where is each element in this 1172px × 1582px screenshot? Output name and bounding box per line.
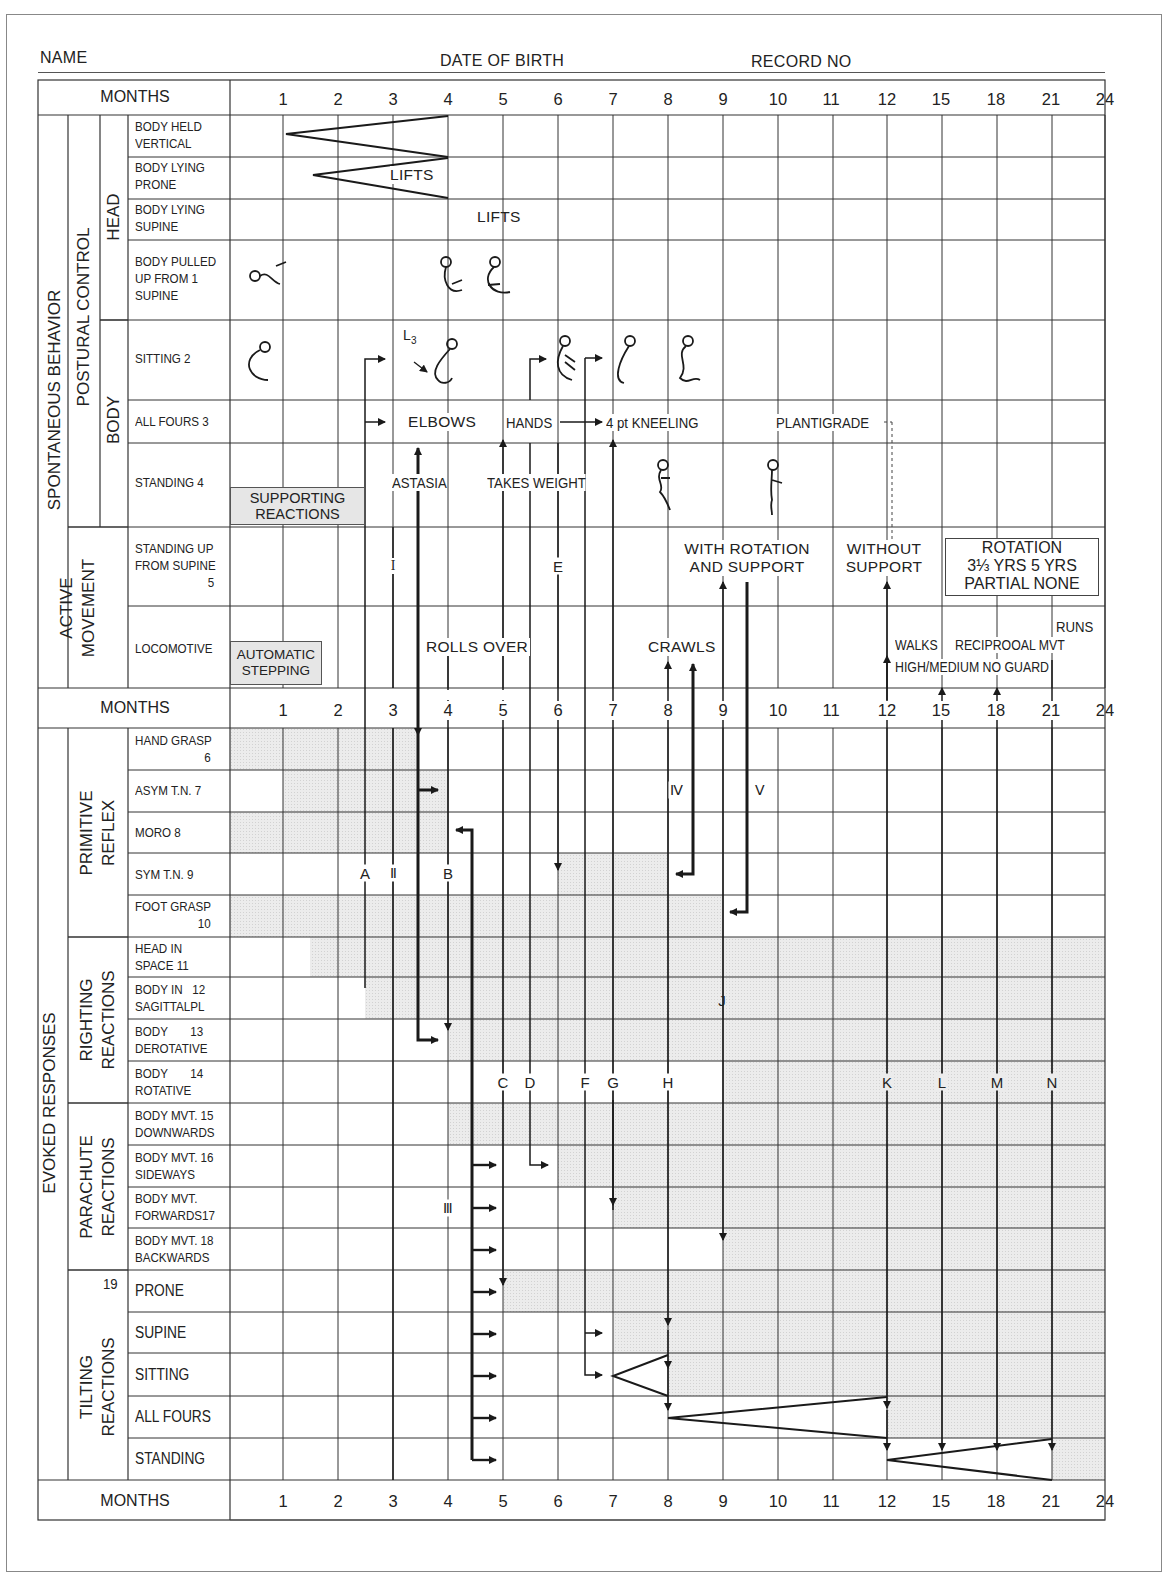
- group-spontaneous-behavior: SPONTANEOUS BEHAVIOR: [45, 255, 65, 545]
- astasia-label: ASTASIA: [392, 474, 447, 491]
- row-body-lying-supine: BODY LYINGSUPINE: [135, 201, 205, 235]
- row-standing: STANDING 4: [135, 474, 204, 491]
- roman-III: Ⅲ: [442, 1200, 454, 1217]
- letter-C: C: [496, 1074, 511, 1091]
- tick-1: 1: [278, 701, 287, 720]
- row-standing-up-from-supine: STANDING UPFROM SUPINE5: [135, 540, 221, 591]
- supporting-reactions-box: SUPPORTINGREACTIONS: [230, 487, 365, 525]
- tick-9: 9: [718, 1492, 727, 1511]
- letter-G: G: [605, 1074, 621, 1091]
- row-body-held-vertical: BODY HELDVERTICAL: [135, 118, 202, 152]
- without-support-label: WITHOUTSUPPORT: [836, 540, 932, 576]
- tick-15: 15: [932, 1492, 950, 1511]
- kneeling-label: 4 pt KNEELING: [606, 414, 698, 431]
- tick-11: 11: [822, 90, 839, 109]
- tick-11: 11: [822, 701, 839, 720]
- plantigrade-label: PLANTIGRADE: [776, 414, 869, 431]
- tick-10: 10: [769, 701, 787, 720]
- row-tilt-all-fours: ALL FOURS: [135, 1408, 211, 1425]
- l3-label: L3: [403, 327, 417, 346]
- tick-15: 15: [932, 90, 950, 109]
- group-body: BODY: [104, 380, 124, 460]
- tick-18: 18: [987, 1492, 1005, 1511]
- tick-3: 3: [388, 1492, 397, 1511]
- row-all-fours: ALL FOURS 3: [135, 413, 209, 430]
- tick-4: 4: [443, 1492, 452, 1511]
- reciprocal-label: RECIPROOAL MVT: [955, 637, 1065, 653]
- row-asym-tn: ASYM T.N. 7: [135, 782, 201, 799]
- letter-M: M: [989, 1074, 1006, 1091]
- tick-10: 10: [769, 1492, 787, 1511]
- tick-3: 3: [388, 90, 397, 109]
- group-evoked-responses: EVOKED RESPONSES: [40, 993, 60, 1213]
- letter-E: E: [551, 558, 565, 575]
- letter-L: L: [936, 1074, 948, 1091]
- rolls-over-label: ROLLS OVER: [424, 638, 530, 656]
- tick-5: 5: [498, 90, 507, 109]
- tick-2: 2: [333, 90, 342, 109]
- tick-4: 4: [443, 701, 452, 720]
- letter-H: H: [661, 1074, 676, 1091]
- tick-5: 5: [498, 701, 507, 720]
- tilting-number: 19: [103, 1275, 118, 1292]
- lifts-prone: LIFTS: [390, 166, 434, 184]
- group-parachute-reactions: PARACHUTEREACTIONS: [76, 1127, 120, 1247]
- roman-IV: Ⅳ: [669, 782, 684, 799]
- group-primitive-reflex: PRIMITIVEREFLEX: [76, 783, 120, 883]
- row-sym-tn: SYM T.N. 9: [135, 866, 194, 883]
- row-body-mvt-backwards: BODY MVT. 18BACKWARDS: [135, 1232, 214, 1266]
- tick-7: 7: [608, 701, 617, 720]
- tick-21: 21: [1042, 701, 1060, 720]
- group-postural-control: POSTURAL CONTROL: [74, 207, 94, 427]
- hands-label: HANDS: [506, 414, 552, 431]
- roman-V: Ⅴ: [754, 782, 766, 799]
- row-body-mvt-downwards: BODY MVT. 15DOWNWARDS: [135, 1107, 215, 1141]
- tick-8: 8: [663, 90, 672, 109]
- roman-II: Ⅱ: [389, 865, 398, 882]
- letter-B: B: [441, 865, 455, 882]
- crawls-label: CRAWLS: [646, 638, 718, 656]
- group-head: HEAD: [104, 177, 124, 257]
- row-sitting: SITTING 2: [135, 350, 190, 367]
- row-tilt-sitting: SITTING: [135, 1366, 189, 1383]
- row-tilt-supine: SUPINE: [135, 1324, 186, 1341]
- tick-10: 10: [769, 90, 787, 109]
- tick-18: 18: [987, 90, 1005, 109]
- tick-24: 24: [1096, 90, 1114, 109]
- tick-21: 21: [1042, 90, 1060, 109]
- tick-5: 5: [498, 1492, 507, 1511]
- tick-12: 12: [878, 1492, 896, 1511]
- tick-9: 9: [718, 701, 727, 720]
- row-tilt-standing: STANDING: [135, 1450, 205, 1467]
- months-header-bottom: MONTHS: [40, 1492, 230, 1510]
- tick-24: 24: [1096, 1492, 1114, 1511]
- row-body-derotative: BODY 13DEROTATIVE: [135, 1023, 207, 1057]
- runs-label: RUNS: [1056, 618, 1093, 635]
- row-body-mvt-forwards: BODY MVT.FORWARDS17: [135, 1190, 215, 1224]
- months-header-top: MONTHS: [40, 88, 230, 106]
- tick-18: 18: [987, 701, 1005, 720]
- lifts-supine: LIFTS: [477, 208, 521, 226]
- months-header-mid: MONTHS: [40, 699, 230, 717]
- tick-24: 24: [1096, 701, 1114, 720]
- rotation-box: ROTATION3⅓ YRS 5 YRSPARTIAL NONE: [945, 538, 1099, 596]
- with-rotation-label: WITH ROTATIONAND SUPPORT: [669, 540, 825, 576]
- row-body-pulled-up: BODY PULLEDUP FROM 1SUPINE: [135, 253, 216, 304]
- tick-12: 12: [878, 90, 896, 109]
- walks-label: WALKS: [895, 637, 938, 653]
- row-head-in-space: HEAD INSPACE 11: [135, 940, 189, 974]
- tick-9: 9: [718, 90, 727, 109]
- letter-K: K: [880, 1074, 894, 1091]
- tick-4: 4: [443, 90, 452, 109]
- tick-6: 6: [553, 701, 562, 720]
- guard-label: HIGH/MEDIUM NO GUARD: [895, 659, 1049, 675]
- tick-21: 21: [1042, 1492, 1060, 1511]
- tick-2: 2: [333, 1492, 342, 1511]
- letter-J: J: [716, 992, 728, 1009]
- tick-6: 6: [553, 1492, 562, 1511]
- elbows-label: ELBOWS: [406, 413, 478, 431]
- tick-7: 7: [608, 90, 617, 109]
- row-tilt-prone: PRONE: [135, 1282, 184, 1299]
- tick-1: 1: [278, 90, 287, 109]
- letter-D: D: [523, 1074, 538, 1091]
